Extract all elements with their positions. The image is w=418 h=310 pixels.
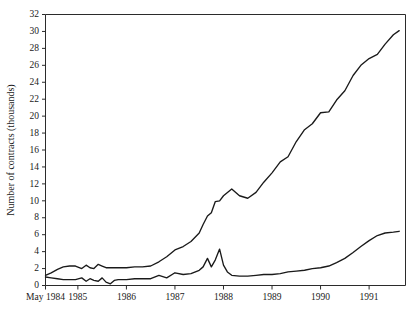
x-tick-label: 1986 xyxy=(117,292,136,302)
y-tick-label: 14 xyxy=(30,162,40,172)
x-tick-label: 1985 xyxy=(68,292,87,302)
y-tick-label: 12 xyxy=(30,179,40,189)
x-tick-label: 1991 xyxy=(360,292,379,302)
y-tick-label: 0 xyxy=(34,280,39,290)
x-tick-label: 1989 xyxy=(263,292,282,302)
x-axis-tick-labels: May 19841985198619871988198919901991 xyxy=(26,292,379,302)
x-tick-label: 1988 xyxy=(214,292,233,302)
y-tick-label: 28 xyxy=(30,43,40,53)
y-tick-label: 24 xyxy=(30,77,40,87)
y-tick-label: 30 xyxy=(30,26,40,36)
chart-figure: 02468101214161820222426283032 May 198419… xyxy=(0,0,418,310)
plot-frame xyxy=(46,15,406,286)
y-tick-label: 18 xyxy=(30,128,40,138)
series-line-upper xyxy=(46,31,400,276)
x-tick-label: 1987 xyxy=(165,292,184,302)
y-axis-tick-labels: 02468101214161820222426283032 xyxy=(30,9,40,290)
line-chart: 02468101214161820222426283032 May 198419… xyxy=(0,0,418,310)
y-tick-label: 6 xyxy=(34,229,39,239)
y-tick-label: 22 xyxy=(30,94,40,104)
y-tick-label: 32 xyxy=(30,9,40,19)
axis-frame xyxy=(46,15,406,286)
y-tick-label: 26 xyxy=(30,60,40,70)
data-series-group xyxy=(46,31,400,284)
y-tick-label: 20 xyxy=(30,111,40,121)
y-axis-title: Number of contracts (thousands) xyxy=(5,84,17,215)
series-line-lower xyxy=(46,231,400,284)
y-tick-label: 10 xyxy=(30,196,40,206)
y-tick-label: 8 xyxy=(34,212,39,222)
x-tick-label: 1990 xyxy=(311,292,330,302)
y-tick-label: 4 xyxy=(34,246,39,256)
y-tick-label: 2 xyxy=(34,263,39,273)
y-tick-label: 16 xyxy=(30,145,40,155)
x-tick-label: May 1984 xyxy=(26,292,65,302)
y-axis-label-text: Number of contracts (thousands) xyxy=(5,84,17,215)
x-axis-ticks xyxy=(46,286,370,290)
y-axis-ticks xyxy=(42,15,46,286)
